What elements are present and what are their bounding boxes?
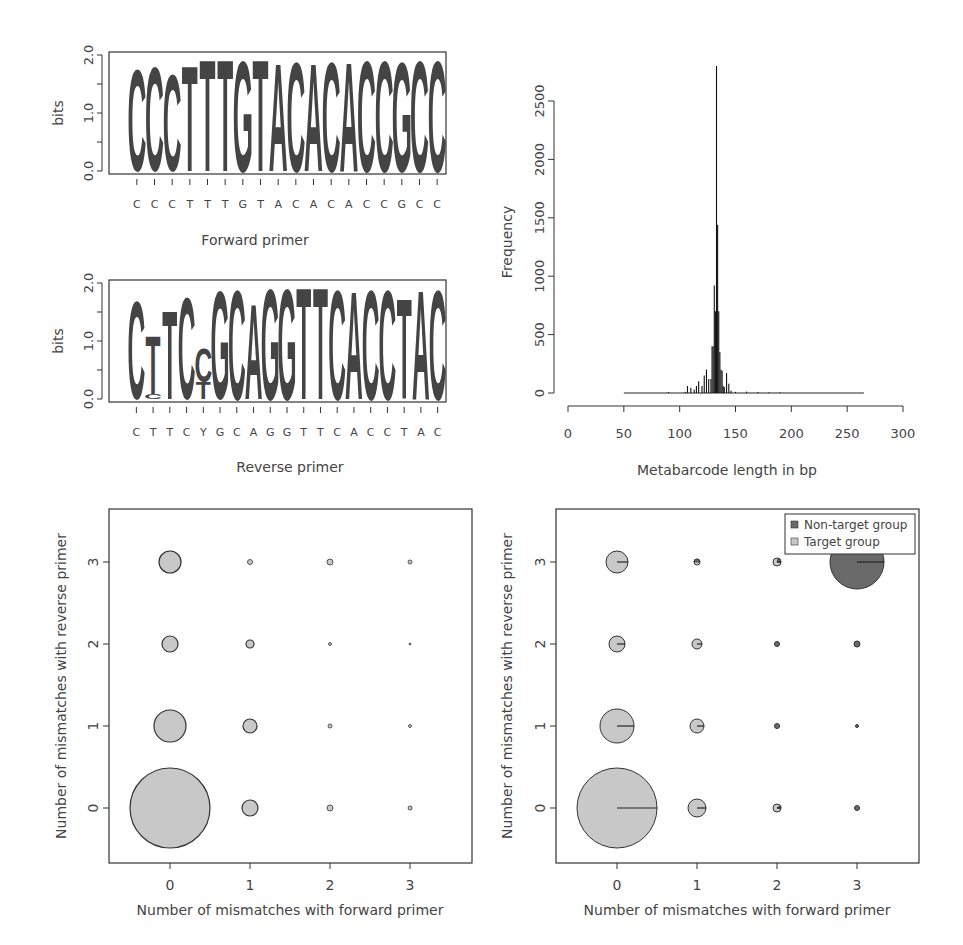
x-tick-label: C bbox=[168, 198, 176, 211]
logo-letter-T: T bbox=[200, 27, 216, 204]
y-axis-label: Number of mismatches with reverse primer bbox=[499, 533, 515, 839]
x-tick-label: T bbox=[256, 198, 264, 211]
logo-letter-C: C bbox=[410, 29, 429, 205]
histogram-bar bbox=[780, 392, 781, 393]
x-axis-label: Number of mismatches with forward primer bbox=[137, 902, 444, 918]
bubble bbox=[243, 719, 257, 733]
x-tick-label: C bbox=[434, 426, 442, 439]
y-tick-label: 3 bbox=[85, 558, 101, 567]
histogram-bar bbox=[717, 225, 718, 393]
pie-marker bbox=[856, 725, 859, 728]
legend-swatch-target-icon bbox=[791, 538, 798, 545]
bubble bbox=[242, 800, 258, 816]
y-tick-label: 1 bbox=[85, 722, 101, 731]
x-tick-label: 0 bbox=[564, 426, 572, 441]
histogram-bar bbox=[713, 346, 714, 393]
histogram-bar bbox=[696, 386, 697, 393]
x-tick-label: C bbox=[233, 426, 241, 439]
x-tick-label: 250 bbox=[835, 426, 860, 441]
pie-marker bbox=[609, 636, 625, 652]
logo-letters: CCTTCTCGCAGGTTCACCTAC bbox=[127, 255, 446, 432]
x-tick-label: A bbox=[274, 198, 282, 211]
x-tick-label: T bbox=[149, 426, 157, 439]
histogram-bar bbox=[698, 381, 699, 393]
logo-letter-C: C bbox=[328, 258, 346, 433]
pie-marker bbox=[854, 641, 860, 647]
y-tick-0: 0.0 bbox=[81, 389, 96, 410]
histogram-bar bbox=[687, 386, 688, 393]
logo-letter-C: C bbox=[145, 36, 164, 203]
histogram-bar bbox=[710, 379, 711, 393]
histogram-bars bbox=[624, 66, 864, 393]
logo-letter-T: T bbox=[162, 285, 177, 425]
y-tick-label: 0 bbox=[532, 389, 547, 397]
y-axis-label: Frequency bbox=[499, 206, 515, 278]
y-tick-label: 1000 bbox=[532, 260, 547, 293]
y-axis: 05001000150020002500 bbox=[532, 84, 554, 397]
histogram-bar bbox=[735, 392, 736, 393]
pie-marker bbox=[775, 724, 780, 729]
y-axis-label: bits bbox=[50, 328, 66, 354]
logo-letter-C: C bbox=[228, 258, 246, 433]
x-tick-label: C bbox=[292, 198, 300, 211]
y-tick-label: 1500 bbox=[532, 201, 547, 234]
x-tick-label: C bbox=[384, 426, 392, 439]
x-tick-label: A bbox=[350, 426, 358, 439]
bubble bbox=[162, 636, 178, 652]
x-axis: 050100150200250300 bbox=[564, 406, 916, 441]
histogram-bar bbox=[694, 389, 695, 393]
logo-letter-C: C bbox=[322, 29, 341, 205]
pie-marker bbox=[855, 806, 860, 811]
logo-letter-C: C bbox=[178, 268, 196, 430]
x-tick-label: C bbox=[133, 198, 141, 211]
x-tick-label: A bbox=[250, 426, 258, 439]
y-axis-label: Number of mismatches with reverse primer bbox=[53, 533, 69, 839]
x-axis-label: Reverse primer bbox=[236, 459, 344, 475]
logo-letter-T: T bbox=[182, 34, 198, 203]
pie-marker bbox=[694, 559, 700, 565]
y-tick-1: 1.0 bbox=[81, 331, 96, 352]
histogram-bar bbox=[685, 392, 686, 393]
y-tick-label: 2 bbox=[85, 640, 101, 649]
pie-marker bbox=[606, 551, 628, 573]
logo-letter-C: C bbox=[428, 29, 447, 205]
y-tick-label: 2500 bbox=[532, 84, 547, 117]
x-axis-label: Number of mismatches with forward primer bbox=[584, 902, 891, 918]
histogram-bar bbox=[704, 375, 705, 393]
mismatch-pie-plot: 01230123 Non-target group Target group N… bbox=[499, 509, 919, 918]
x-tick-label: G bbox=[216, 426, 225, 439]
histogram-bar bbox=[708, 379, 709, 393]
pie-marker bbox=[773, 558, 781, 566]
x-tick-label: 0 bbox=[166, 877, 175, 893]
y-tick-label: 0 bbox=[532, 804, 548, 813]
x-tick-label: C bbox=[367, 426, 375, 439]
y-tick-label: 2 bbox=[532, 640, 548, 649]
x-tick-label: G bbox=[398, 198, 407, 211]
y-tick-2: 2.0 bbox=[81, 45, 96, 66]
pie-marker bbox=[600, 709, 634, 743]
pie-marker bbox=[577, 768, 657, 848]
x-tick-label: 2 bbox=[773, 877, 782, 893]
bubble bbox=[130, 768, 210, 848]
logo-letter-C: C bbox=[357, 29, 376, 205]
y-tick-2: 2.0 bbox=[81, 273, 96, 294]
logo-letter-G: G bbox=[233, 29, 253, 205]
histogram-bar bbox=[722, 371, 723, 393]
x-tick-label: T bbox=[400, 426, 408, 439]
logo-letter-G: G bbox=[277, 256, 296, 432]
x-tick-label: C bbox=[433, 198, 441, 211]
length-histogram: 05001000150020002500 050100150200250300 … bbox=[499, 66, 915, 478]
y-tick-label: 2000 bbox=[532, 143, 547, 176]
y-tick-0: 0.0 bbox=[81, 161, 96, 182]
figure-canvas: CCCTTTGTACACACCGCC 2.0 1.0 0.0 bits CCCT… bbox=[0, 0, 963, 945]
x-tick-label: A bbox=[310, 198, 318, 211]
logo-letter-A: A bbox=[304, 30, 323, 204]
x-tick-label: C bbox=[333, 426, 341, 439]
logo-letter-T: T bbox=[253, 27, 269, 204]
x-tick-label: A bbox=[417, 426, 425, 439]
logo-letter-T: T bbox=[146, 318, 161, 412]
x-axis-label: Forward primer bbox=[201, 232, 309, 248]
x-tick-label: 3 bbox=[406, 877, 415, 893]
x-tick-label: 0 bbox=[613, 877, 622, 893]
logo-letter-T: T bbox=[217, 27, 233, 204]
